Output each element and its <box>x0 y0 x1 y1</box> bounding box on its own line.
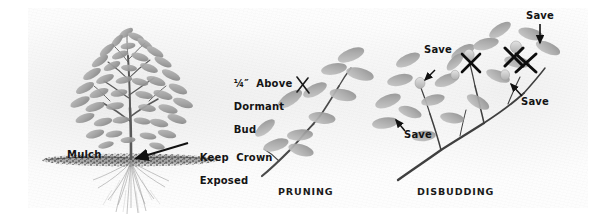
save-label-lower: Save <box>521 96 549 108</box>
keep-crown-exposed-label: Keep Crown Exposed <box>185 140 273 198</box>
bud-label-line-1: ¼″ Above <box>234 78 293 89</box>
mulch-label: Mulch <box>67 149 102 161</box>
keep-crown-line-2: Exposed <box>200 175 249 186</box>
bud-label-line-3: Bud <box>234 124 257 135</box>
quarter-inch-above-dormant-bud-label: ¼″ Above Dormant Bud <box>219 66 292 147</box>
keep-crown-line-1: Keep Crown <box>200 152 273 163</box>
save-label-top: Save <box>526 10 554 22</box>
save-label-bud: Save <box>404 129 432 141</box>
paper-grain-overlay <box>28 8 588 208</box>
bud-label-line-2: Dormant <box>234 101 285 112</box>
illustration-canvas: Mulch Keep Crown Exposed ¼″ Above Dorman… <box>0 0 613 223</box>
save-label-left: Save <box>424 44 452 56</box>
pruning-caption: PRUNING <box>278 186 334 197</box>
disbudding-caption: DISBUDDING <box>417 186 494 197</box>
